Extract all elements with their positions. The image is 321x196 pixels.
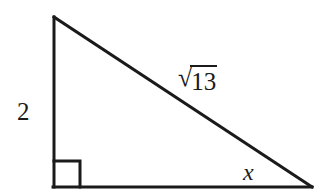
angle-label: x — [243, 160, 254, 184]
hypotenuse-label: √13 — [178, 64, 217, 93]
vertical-leg-label: 2 — [17, 99, 30, 124]
hypotenuse-line — [54, 17, 312, 187]
right-triangle-svg — [0, 0, 321, 196]
triangle-figure-canvas: 2 √13 x — [0, 0, 321, 196]
square-root-expression: √13 — [178, 64, 217, 93]
radicand-value: 13 — [190, 65, 217, 94]
right-angle-marker-icon — [54, 161, 80, 187]
